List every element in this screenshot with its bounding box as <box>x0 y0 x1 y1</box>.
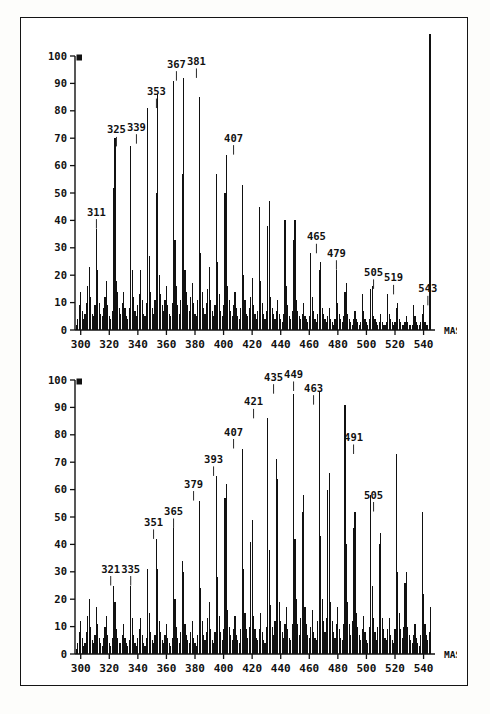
svg-text:465: 465 <box>307 230 326 242</box>
svg-text:520: 520 <box>385 662 405 675</box>
svg-text:505: 505 <box>364 266 383 278</box>
svg-text:100: 100 <box>48 374 67 386</box>
bottom-spectrum-plot: 0102030405060708090100300320340360380400… <box>27 358 457 688</box>
svg-text:365: 365 <box>164 505 183 517</box>
svg-text:540: 540 <box>414 662 434 675</box>
svg-text:340: 340 <box>128 338 148 351</box>
svg-text:340: 340 <box>128 662 148 675</box>
svg-text:335: 335 <box>121 563 140 575</box>
svg-text:440: 440 <box>271 338 291 351</box>
svg-text:400: 400 <box>214 338 234 351</box>
svg-text:360: 360 <box>156 338 176 351</box>
svg-text:491: 491 <box>344 431 363 443</box>
svg-text:90: 90 <box>54 401 67 413</box>
bottom-spectrum-panel: 0102030405060708090100300320340360380400… <box>27 358 457 688</box>
svg-text:100: 100 <box>48 50 67 62</box>
svg-text:311: 311 <box>87 206 106 218</box>
svg-text:421: 421 <box>244 395 263 407</box>
svg-text:300: 300 <box>71 662 91 675</box>
x-axis-label: MASS <box>444 649 457 660</box>
svg-text:40: 40 <box>54 214 67 226</box>
svg-text:320: 320 <box>99 662 119 675</box>
svg-text:380: 380 <box>185 662 205 675</box>
top-spectrum-panel: 0102030405060708090100300320340360380400… <box>27 34 457 364</box>
svg-text:30: 30 <box>54 241 67 253</box>
svg-text:90: 90 <box>54 77 67 89</box>
svg-text:80: 80 <box>54 104 67 116</box>
svg-text:0: 0 <box>61 324 67 336</box>
svg-text:400: 400 <box>214 662 234 675</box>
top-spectrum-plot: 0102030405060708090100300320340360380400… <box>27 34 457 364</box>
svg-text:360: 360 <box>156 662 176 675</box>
svg-text:80: 80 <box>54 428 67 440</box>
svg-text:420: 420 <box>242 338 262 351</box>
svg-text:70: 70 <box>54 456 67 468</box>
svg-text:393: 393 <box>204 453 223 465</box>
svg-text:379: 379 <box>184 478 203 490</box>
svg-text:320: 320 <box>99 338 119 351</box>
svg-text:500: 500 <box>356 662 376 675</box>
svg-text:380: 380 <box>185 338 205 351</box>
page-canvas: 0102030405060708090100300320340360380400… <box>0 0 490 714</box>
svg-text:367: 367 <box>167 58 186 70</box>
svg-text:300: 300 <box>71 338 91 351</box>
svg-text:449: 449 <box>284 368 303 380</box>
svg-text:60: 60 <box>54 483 67 495</box>
svg-text:480: 480 <box>328 338 348 351</box>
svg-text:40: 40 <box>54 538 67 550</box>
svg-text:519: 519 <box>384 271 403 283</box>
svg-text:505: 505 <box>364 489 383 501</box>
svg-text:0: 0 <box>61 648 67 660</box>
svg-text:351: 351 <box>144 516 163 528</box>
svg-text:70: 70 <box>54 132 67 144</box>
svg-text:50: 50 <box>54 187 67 199</box>
svg-text:480: 480 <box>328 662 348 675</box>
svg-text:479: 479 <box>327 247 346 259</box>
x-axis-label: MASS <box>444 325 457 336</box>
svg-text:460: 460 <box>299 338 319 351</box>
svg-text:60: 60 <box>54 159 67 171</box>
svg-text:407: 407 <box>224 426 243 438</box>
svg-text:543: 543 <box>418 282 437 294</box>
svg-text:407: 407 <box>224 132 243 144</box>
svg-text:381: 381 <box>187 55 206 67</box>
svg-text:10: 10 <box>54 296 67 308</box>
svg-text:440: 440 <box>271 662 291 675</box>
svg-text:339: 339 <box>127 121 146 133</box>
svg-text:30: 30 <box>54 565 67 577</box>
svg-text:463: 463 <box>304 382 323 394</box>
svg-text:50: 50 <box>54 511 67 523</box>
svg-text:325: 325 <box>107 123 126 135</box>
svg-text:460: 460 <box>299 662 319 675</box>
svg-text:435: 435 <box>264 371 283 383</box>
svg-text:520: 520 <box>385 338 405 351</box>
svg-text:20: 20 <box>54 593 67 605</box>
figure-sheet: 0102030405060708090100300320340360380400… <box>20 17 468 686</box>
svg-text:500: 500 <box>356 338 376 351</box>
svg-text:10: 10 <box>54 620 67 632</box>
svg-text:353: 353 <box>147 85 166 97</box>
svg-text:540: 540 <box>414 338 434 351</box>
svg-text:420: 420 <box>242 662 262 675</box>
svg-text:321: 321 <box>101 563 120 575</box>
svg-text:20: 20 <box>54 269 67 281</box>
